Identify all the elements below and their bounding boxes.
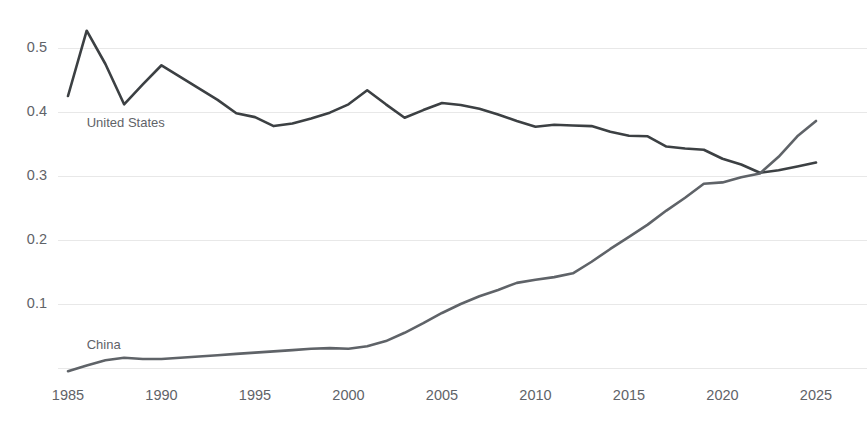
series-label-united-states: United States <box>87 115 166 130</box>
chart-plot-area: 0.10.20.30.40.5 198519901995200020052010… <box>0 0 867 431</box>
y-axis-tick-label: 0.4 <box>27 103 47 119</box>
gridlines <box>58 48 867 368</box>
x-axis-tick-labels: 198519901995200020052010201520202025 <box>52 387 832 403</box>
x-axis-tick-label: 2015 <box>613 387 645 403</box>
y-axis-tick-labels: 0.10.20.30.40.5 <box>27 39 47 311</box>
x-axis-tick-label: 2025 <box>800 387 832 403</box>
x-axis-tick-label: 2020 <box>706 387 738 403</box>
x-axis-tick-label: 1985 <box>52 387 84 403</box>
y-axis-tick-label: 0.5 <box>27 39 47 55</box>
x-axis-tick-label: 1990 <box>145 387 177 403</box>
y-axis-tick-label: 0.1 <box>27 295 47 311</box>
y-axis-tick-label: 0.3 <box>27 167 47 183</box>
x-axis-tick-label: 2005 <box>426 387 458 403</box>
y-axis-tick-label: 0.2 <box>27 231 47 247</box>
series-line-china <box>68 121 816 371</box>
series-inline-labels: United StatesChina <box>87 115 166 352</box>
x-axis-tick-label: 1995 <box>239 387 271 403</box>
series-line-united-states <box>68 31 816 173</box>
x-axis-tick-label: 2010 <box>519 387 551 403</box>
line-chart: 0.10.20.30.40.5 198519901995200020052010… <box>0 0 867 431</box>
series-label-china: China <box>87 337 122 352</box>
data-series-lines <box>68 31 816 371</box>
x-axis-tick-label: 2000 <box>332 387 364 403</box>
